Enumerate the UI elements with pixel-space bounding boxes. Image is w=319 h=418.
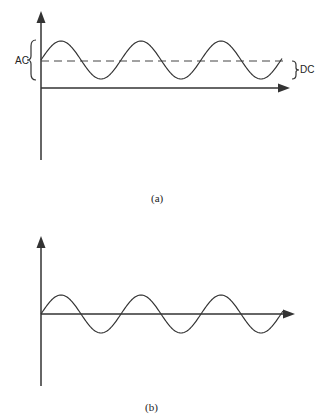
panel-a [27,17,299,160]
ac-label: AC [15,55,29,66]
caption-b: (b) [145,401,158,413]
diagram-canvas [0,0,319,418]
dc-label: DC [300,64,314,75]
ac-dc-waveform [41,41,282,79]
dc-brace [292,61,299,79]
panel-b [41,242,289,386]
caption-a: (a) [151,192,163,204]
